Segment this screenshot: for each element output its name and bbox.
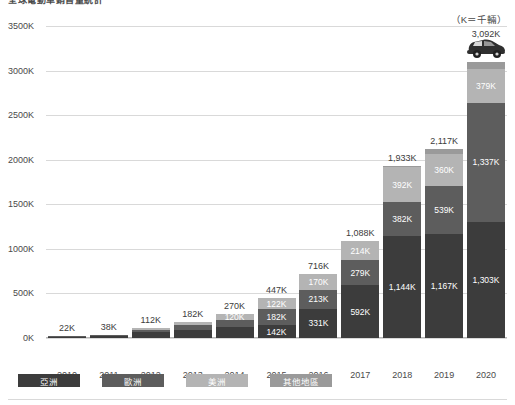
bar-segment-2019-美洲[interactable]: 360K <box>425 154 463 186</box>
bar-total-label-2017: 1,088K <box>346 228 375 238</box>
legend-swatch-亞洲: 亞洲 <box>18 374 80 387</box>
bar-2014[interactable]: 120K <box>216 314 254 338</box>
bar-segment-2017-美洲[interactable]: 214K <box>341 241 379 260</box>
x-axis-label-2019: 2019 <box>425 370 463 380</box>
bar-segment-2017-亞洲[interactable]: 592K <box>341 285 379 338</box>
bar-2016[interactable]: 331K213K170K <box>299 274 337 338</box>
gridline <box>46 115 507 116</box>
y-axis-label: 500K <box>0 288 34 298</box>
y-axis-label: 2500K <box>0 110 34 120</box>
gridline <box>46 71 507 72</box>
bar-segment-2013-亞洲[interactable] <box>174 330 212 338</box>
bar-segment-2015-美洲[interactable]: 122K <box>258 298 296 309</box>
bar-2012[interactable] <box>132 328 170 338</box>
bar-segment-2020-亞洲[interactable]: 1,303K <box>467 222 505 338</box>
chart-title: 全球電動車銷售量統計 <box>8 0 103 6</box>
bar-segment-2016-亞洲[interactable]: 331K <box>299 309 337 339</box>
bar-segment-2015-亞洲[interactable]: 142K <box>258 325 296 338</box>
bar-segment-2018-歐洲[interactable]: 382K <box>383 202 421 236</box>
bar-segment-2018-美洲[interactable]: 392K <box>383 167 421 202</box>
bar-segment-2016-美洲[interactable]: 170K <box>299 274 337 289</box>
bar-segment-2014-亞洲[interactable] <box>216 327 254 338</box>
chart-legend: 亞洲歐洲美洲其他地區 <box>18 374 354 387</box>
y-axis-label: 2000K <box>0 155 34 165</box>
legend-item-美洲[interactable]: 美洲 <box>186 374 248 387</box>
stacked-bar-chart: 全球電動車銷售量統計 （K＝千輛） 3500K3000K2500K2000K15… <box>0 0 515 405</box>
y-axis-label: 3500K <box>0 21 34 31</box>
y-axis-label: 3000K <box>0 66 34 76</box>
bar-total-label-2015: 447K <box>266 285 287 295</box>
bar-2015[interactable]: 142K182K122K <box>258 298 296 338</box>
bar-segment-2020-歐洲[interactable]: 1,337K <box>467 103 505 222</box>
legend-swatch-其他地區: 其他地區 <box>270 374 332 387</box>
bar-total-label-2013: 182K <box>182 309 203 319</box>
bar-2011[interactable] <box>90 335 128 338</box>
bar-segment-2020-美洲[interactable]: 379K <box>467 69 505 103</box>
bar-total-label-2016: 716K <box>308 261 329 271</box>
bar-2020[interactable]: 1,303K1,337K379K <box>467 62 505 338</box>
gridline <box>46 338 507 339</box>
bar-total-label-2018: 1,933K <box>388 153 417 163</box>
x-axis-label-2018: 2018 <box>383 370 421 380</box>
bar-2018[interactable]: 1,144K382K392K <box>383 166 421 338</box>
bar-total-label-2019: 2,117K <box>430 136 458 146</box>
x-axis-label-2020: 2020 <box>467 370 505 380</box>
bar-segment-2010-亞洲[interactable] <box>48 337 86 338</box>
gridline <box>46 26 507 27</box>
bar-2019[interactable]: 1,167K539K360K <box>425 149 463 338</box>
bar-total-label-2010: 22K <box>59 323 75 333</box>
bar-segment-2014-歐洲[interactable] <box>216 320 254 327</box>
bar-2010[interactable] <box>48 336 86 338</box>
bar-segment-2015-歐洲[interactable]: 182K <box>258 309 296 325</box>
y-axis-label: 0K <box>0 333 34 343</box>
bar-segment-2016-歐洲[interactable]: 213K <box>299 290 337 309</box>
plot-area: 3500K3000K2500K2000K1500K1000K500K0K22K2… <box>46 26 507 338</box>
bar-2017[interactable]: 592K279K214K <box>341 241 379 338</box>
bar-total-label-2011: 38K <box>101 322 117 332</box>
bar-segment-2019-歐洲[interactable]: 539K <box>425 186 463 234</box>
legend-swatch-歐洲: 歐洲 <box>102 374 164 387</box>
bar-2013[interactable] <box>174 322 212 338</box>
unit-note: （K＝千輛） <box>451 12 507 26</box>
bar-segment-2012-亞洲[interactable] <box>132 332 170 338</box>
legend-item-歐洲[interactable]: 歐洲 <box>102 374 164 387</box>
legend-swatch-美洲: 美洲 <box>186 374 248 387</box>
bar-segment-2017-歐洲[interactable]: 279K <box>341 260 379 285</box>
legend-item-亞洲[interactable]: 亞洲 <box>18 374 80 387</box>
legend-item-其他地區[interactable]: 其他地區 <box>270 374 332 387</box>
bar-total-label-2014: 270K <box>224 301 245 311</box>
bar-segment-2019-亞洲[interactable]: 1,167K <box>425 234 463 338</box>
y-axis-label: 1000K <box>0 244 34 254</box>
footer-divider <box>8 399 507 400</box>
bar-total-label-2012: 112K <box>141 315 161 325</box>
car-icon <box>463 36 509 58</box>
y-axis-label: 1500K <box>0 199 34 209</box>
bar-segment-2018-亞洲[interactable]: 1,144K <box>383 236 421 338</box>
bar-segment-2011-亞洲[interactable] <box>90 336 128 338</box>
